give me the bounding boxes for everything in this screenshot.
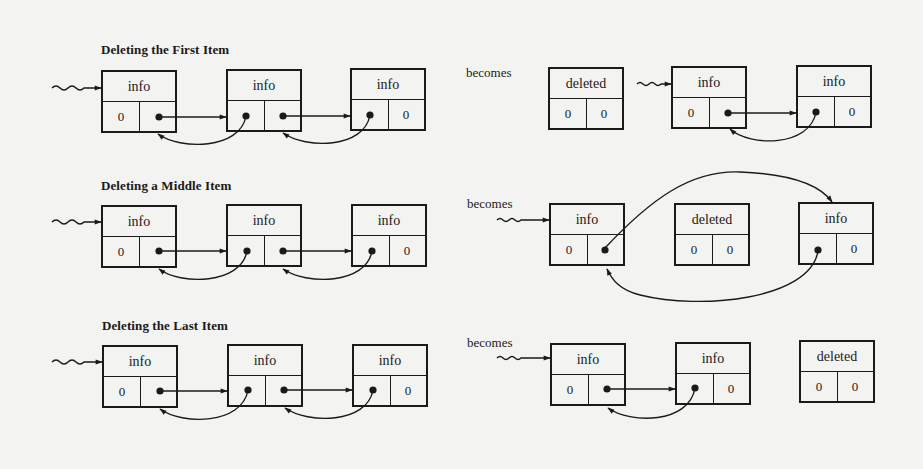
pointer-dot-icon xyxy=(368,247,375,254)
pointer-dot-icon xyxy=(155,247,162,254)
prev-arrow-icon xyxy=(607,251,818,301)
doubly-linked-list-deletion-diagram: Deleting the First Item info 0 info info… xyxy=(0,0,923,469)
pointer-dot-icon xyxy=(366,111,373,118)
pointer-dot-icon xyxy=(691,384,698,391)
prev-arrow-icon xyxy=(160,390,248,419)
pointer-dot-icon xyxy=(243,247,250,254)
head-pointer-squiggle-icon xyxy=(52,220,101,224)
pointer-dot-icon xyxy=(279,112,286,119)
head-pointer-squiggle-icon xyxy=(52,360,102,364)
pointer-dot-icon xyxy=(601,246,608,253)
pointer-dot-icon xyxy=(814,246,821,253)
head-pointer-squiggle-icon xyxy=(52,86,101,90)
pointer-dot-icon xyxy=(369,386,376,393)
pointer-dot-icon xyxy=(279,247,286,254)
pointer-dot-icon xyxy=(244,386,251,393)
pointer-dot-icon xyxy=(603,385,610,392)
head-pointer-squiggle-icon xyxy=(497,219,549,222)
pointer-arrows-layer xyxy=(0,0,923,469)
prev-arrow-icon xyxy=(608,388,695,418)
prev-arrow-icon xyxy=(285,390,373,418)
prev-arrow-icon xyxy=(158,116,246,144)
pointer-dot-icon xyxy=(156,387,163,394)
pointer-dot-icon xyxy=(242,112,249,119)
head-pointer-squiggle-icon xyxy=(637,83,671,86)
pointer-dot-icon xyxy=(724,109,731,116)
prev-arrow-icon xyxy=(159,251,247,279)
pointer-dot-icon xyxy=(155,113,162,120)
pointer-dot-icon xyxy=(280,386,287,393)
next-arrow-icon xyxy=(605,172,832,248)
prev-arrow-icon xyxy=(283,251,372,279)
prev-arrow-icon xyxy=(283,115,370,143)
prev-arrow-icon xyxy=(730,112,816,141)
pointer-dot-icon xyxy=(812,108,819,115)
head-pointer-squiggle-icon xyxy=(497,357,550,360)
